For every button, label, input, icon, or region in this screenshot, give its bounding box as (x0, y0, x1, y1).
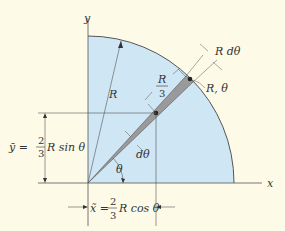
rdtheta-arrow-2 (213, 62, 222, 70)
quarter-circle-centroid-diagram: y x R R, θ R dθ R 3 θ dθ ȳ = 2 3 R sin θ… (0, 0, 285, 231)
y-axis-label: y (83, 12, 91, 25)
arc-width-label: R dθ (214, 45, 241, 58)
xbar-rhs: R cos θ (118, 202, 160, 215)
ybar-lhs: ȳ = (8, 141, 28, 154)
x-axis-label: x (267, 177, 274, 190)
ybar-arrow-bottom (43, 178, 47, 183)
offset-label-den: 3 (159, 88, 165, 99)
xbar-num: 2 (110, 196, 116, 207)
ybar-num: 2 (38, 135, 44, 146)
ybar-den: 3 (38, 148, 44, 159)
radius-label: R (108, 88, 117, 101)
angle-label: θ (116, 163, 123, 176)
xbar-arrow-left (83, 205, 88, 209)
ybar-rhs: R sin θ (46, 141, 86, 154)
rdtheta-arrow-1 (200, 44, 208, 51)
rdtheta-ext-1 (186, 55, 203, 76)
offset-label-num: R (157, 73, 166, 86)
xbar-lhs: x̃ = (90, 202, 109, 215)
xbar-den: 3 (110, 210, 116, 221)
element-tip-point (188, 77, 193, 82)
ybar-arrow-top (43, 113, 47, 118)
dangle-label: dθ (136, 148, 150, 161)
point-label: R, θ (205, 82, 228, 95)
